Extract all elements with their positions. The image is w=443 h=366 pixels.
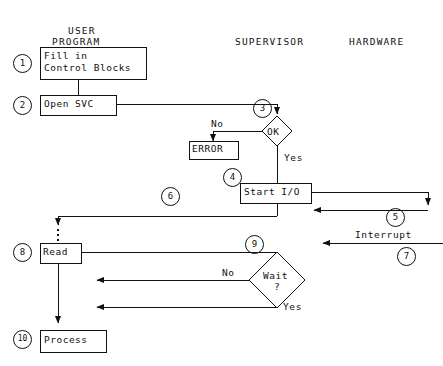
node-wait-decision-label-line2: ? [274,281,280,293]
node-wait-decision[interactable] [0,0,443,366]
step-marker-7: 7 [397,247,416,266]
edge-label-wait-yes: Yes [283,301,302,312]
edge-label-ok-no: No [211,118,224,129]
step-marker-9: 9 [245,235,264,254]
step-marker-2: 2 [13,96,32,115]
node-wait-decision-label-line1: Wait [263,270,288,282]
step-marker-10: 10 [13,330,32,349]
edge-label-ok-yes: Yes [284,152,303,163]
step-marker-1: 1 [13,54,32,73]
edge-label-wait-no: No [222,267,235,278]
edge-label-interrupt: Interrupt [355,229,412,240]
step-marker-4: 4 [223,168,242,187]
step-marker-3: 3 [253,99,272,118]
step-marker-6: 6 [161,187,180,206]
node-process-label: Process [44,334,88,346]
step-marker-8: 8 [13,243,32,262]
step-marker-5: 5 [386,208,405,227]
flowchart-canvas: ERROR --> Start I/O --> back left --> do… [0,0,443,366]
